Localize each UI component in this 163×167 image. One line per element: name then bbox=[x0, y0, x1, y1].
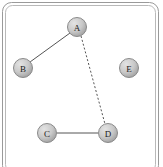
node-circle-c[interactable] bbox=[38, 124, 57, 143]
node-circle-d[interactable] bbox=[99, 124, 118, 143]
graph-node-b[interactable]: B bbox=[14, 59, 33, 78]
node-circle-b[interactable] bbox=[14, 59, 33, 78]
graph-node-d[interactable]: D bbox=[99, 124, 118, 143]
graph-node-a[interactable]: A bbox=[68, 18, 87, 37]
edge-layer bbox=[30, 33, 105, 133]
graph-edge-a-b[interactable] bbox=[30, 33, 70, 62]
graph-edge-a-d[interactable] bbox=[81, 36, 105, 124]
graph-node-c[interactable]: C bbox=[38, 124, 57, 143]
graph-node-e[interactable]: E bbox=[120, 59, 139, 78]
node-layer: ABCDE bbox=[14, 18, 139, 143]
node-circle-e[interactable] bbox=[120, 59, 139, 78]
node-circle-a[interactable] bbox=[68, 18, 87, 37]
graph-panel: ABCDE bbox=[0, 0, 163, 167]
node-link-diagram[interactable]: ABCDE bbox=[0, 0, 163, 167]
